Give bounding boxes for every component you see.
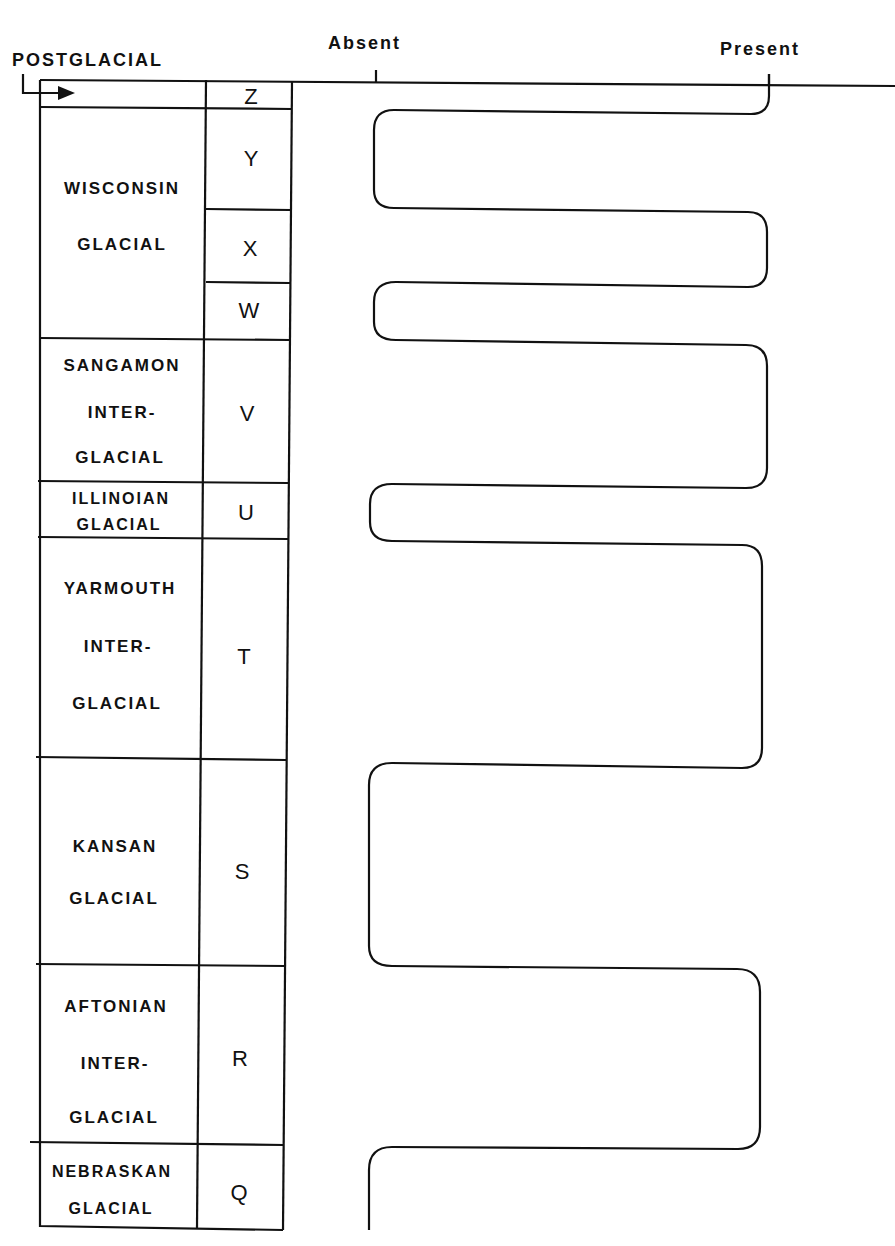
stage-illinoian: ILLINOIAN GLACIAL — [72, 490, 170, 533]
svg-text:GLACIAL: GLACIAL — [69, 1108, 159, 1127]
svg-text:GLACIAL: GLACIAL — [68, 1200, 153, 1217]
glacial-stage-diagram: Absent Present POSTGLACIAL Z Y X W V U T… — [0, 0, 895, 1246]
postglacial-label: POSTGLACIAL — [12, 50, 163, 70]
zone-u: U — [238, 500, 254, 525]
stage-yarmouth: YARMOUTH INTER- GLACIAL — [64, 579, 177, 713]
svg-text:KANSAN: KANSAN — [73, 837, 158, 856]
presence-curve — [369, 74, 769, 1230]
svg-text:GLACIAL: GLACIAL — [69, 889, 159, 908]
svg-text:INTER-: INTER- — [84, 637, 153, 656]
svg-text:SANGAMON: SANGAMON — [63, 356, 180, 375]
zone-s: S — [235, 859, 250, 884]
svg-text:GLACIAL: GLACIAL — [72, 694, 162, 713]
zone-y: Y — [244, 146, 259, 171]
postglacial-arrow-icon — [23, 74, 75, 100]
axis-line — [40, 80, 895, 86]
stage-kansan: KANSAN GLACIAL — [69, 837, 159, 908]
axis-label-absent: Absent — [328, 33, 401, 53]
zone-r: R — [232, 1046, 248, 1071]
stage-aftonian: AFTONIAN INTER- GLACIAL — [64, 997, 168, 1127]
stage-wisconsin: WISCONSIN GLACIAL — [64, 179, 180, 254]
stage-nebraskan: NEBRASKAN GLACIAL — [52, 1163, 172, 1217]
svg-text:GLACIAL: GLACIAL — [77, 235, 167, 254]
svg-text:YARMOUTH: YARMOUTH — [64, 579, 177, 598]
svg-text:INTER-: INTER- — [81, 1054, 150, 1073]
zone-w: W — [239, 298, 260, 323]
svg-text:NEBRASKAN: NEBRASKAN — [52, 1163, 172, 1180]
stage-sangamon: SANGAMON INTER- GLACIAL — [63, 356, 180, 467]
svg-text:INTER-: INTER- — [88, 403, 157, 422]
zone-t: T — [237, 644, 250, 669]
zone-v: V — [240, 401, 255, 426]
svg-text:GLACIAL: GLACIAL — [75, 448, 165, 467]
zone-z: Z — [244, 84, 257, 109]
zone-q: Q — [230, 1180, 247, 1205]
svg-text:AFTONIAN: AFTONIAN — [64, 997, 168, 1016]
svg-text:GLACIAL: GLACIAL — [76, 516, 161, 533]
svg-text:ILLINOIAN: ILLINOIAN — [72, 490, 170, 507]
svg-text:WISCONSIN: WISCONSIN — [64, 179, 180, 198]
axis-label-present: Present — [720, 39, 800, 59]
zone-x: X — [243, 236, 258, 261]
